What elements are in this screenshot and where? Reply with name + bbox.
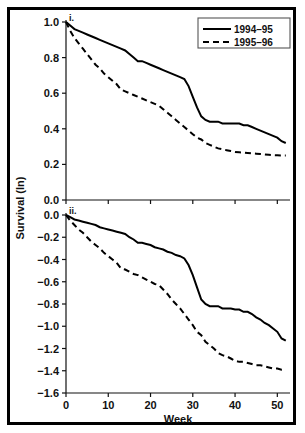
y-tick-label-top-4: 0.8 xyxy=(44,52,59,64)
y-tick-label-bottom-8: 0.0 xyxy=(44,209,59,221)
y-tick-label-bottom-6: −0.4 xyxy=(37,254,60,266)
y-tick-label-top-3: 0.6 xyxy=(44,87,59,99)
series-line-bottom-1994-95 xyxy=(66,215,286,341)
x-tick-label-0: 0 xyxy=(63,399,69,411)
x-tick-label-2: 20 xyxy=(144,399,156,411)
legend-label-1995-96: 1995–96 xyxy=(234,37,273,48)
panel-tag-top: i. xyxy=(69,13,74,23)
panel-tag-bottom: ii. xyxy=(69,206,77,216)
x-tick-label-1: 10 xyxy=(102,399,114,411)
legend-label-1994-95: 1994–95 xyxy=(234,24,273,35)
survival-chart: 0.00.20.40.60.81.0i.−1.6−1.4−1.2−1.0−0.8… xyxy=(0,0,305,433)
x-tick-label-3: 30 xyxy=(187,399,199,411)
y-tick-label-bottom-2: −1.2 xyxy=(37,343,59,355)
y-tick-label-top-5: 1.0 xyxy=(44,16,59,28)
y-tick-label-top-0: 0.0 xyxy=(44,194,59,206)
series-line-bottom-1995-96 xyxy=(66,215,286,370)
figure-root: 0.00.20.40.60.81.0i.−1.6−1.4−1.2−1.0−0.8… xyxy=(0,0,305,433)
x-axis-title: Week xyxy=(164,413,193,425)
y-tick-label-bottom-5: −0.6 xyxy=(37,276,59,288)
y-axis-title: Survival (ln) xyxy=(14,176,26,239)
y-tick-label-bottom-0: −1.6 xyxy=(37,387,59,399)
y-tick-label-top-2: 0.4 xyxy=(44,123,60,135)
y-tick-label-top-1: 0.2 xyxy=(44,158,59,170)
x-tick-label-4: 40 xyxy=(229,399,241,411)
x-tick-label-5: 50 xyxy=(271,399,283,411)
y-tick-label-bottom-3: −1.0 xyxy=(37,320,59,332)
y-tick-label-bottom-7: −0.2 xyxy=(37,231,59,243)
legend: 1994–951995–96 xyxy=(198,18,290,48)
y-tick-label-bottom-1: −1.4 xyxy=(37,365,60,377)
y-tick-label-bottom-4: −0.8 xyxy=(37,298,59,310)
